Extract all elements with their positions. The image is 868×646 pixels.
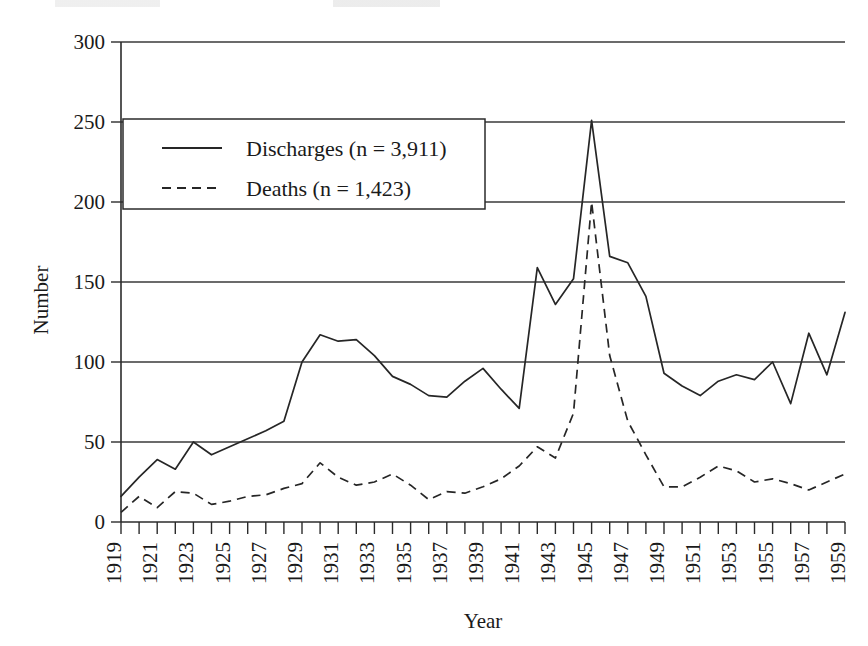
series-line-deaths [121, 202, 845, 512]
y-tick-label-100: 100 [74, 350, 106, 374]
x-axis-ticks [121, 522, 845, 534]
x-axis-title: Year [464, 609, 503, 633]
x-tick-label-1933: 1933 [355, 542, 379, 584]
x-tick-label-1925: 1925 [211, 542, 235, 584]
legend-label-discharges: Discharges (n = 3,911) [246, 136, 447, 161]
x-tick-label-1929: 1929 [283, 542, 307, 584]
x-tick-label-1935: 1935 [392, 542, 416, 584]
x-tick-label-1919: 1919 [102, 542, 126, 584]
x-tick-label-1923: 1923 [174, 542, 198, 584]
legend-label-deaths: Deaths (n = 1,423) [246, 176, 411, 201]
x-tick-label-1941: 1941 [500, 542, 524, 584]
y-tick-label-150: 150 [74, 270, 106, 294]
x-tick-label-1937: 1937 [428, 542, 452, 584]
x-tick-label-1945: 1945 [573, 542, 597, 584]
y-tick-label-0: 0 [95, 510, 106, 534]
x-tick-label-1951: 1951 [681, 542, 705, 584]
x-tick-label-1927: 1927 [247, 542, 271, 584]
x-tick-label-1955: 1955 [754, 542, 778, 584]
y-tick-label-200: 200 [74, 190, 106, 214]
x-tick-label-1943: 1943 [536, 542, 560, 584]
grid-lines [121, 42, 845, 442]
x-axis-tick-labels: 1919192119231925192719291931193319351937… [102, 542, 850, 584]
line-chart: 050100150200250300 191919211923192519271… [0, 0, 868, 646]
x-tick-label-1931: 1931 [319, 542, 343, 584]
x-tick-label-1921: 1921 [138, 542, 162, 584]
x-tick-label-1949: 1949 [645, 542, 669, 584]
y-axis-title: Number [29, 266, 53, 335]
x-tick-label-1947: 1947 [609, 542, 633, 584]
x-tick-label-1959: 1959 [826, 542, 850, 584]
x-tick-label-1939: 1939 [464, 542, 488, 584]
y-axis-tick-labels: 050100150200250300 [74, 30, 106, 534]
y-tick-label-50: 50 [84, 430, 105, 454]
legend: Discharges (n = 3,911) Deaths (n = 1,423… [123, 119, 485, 209]
y-axis-ticks [111, 42, 121, 522]
y-tick-label-250: 250 [74, 110, 106, 134]
y-tick-label-300: 300 [74, 30, 106, 54]
x-tick-label-1953: 1953 [717, 542, 741, 584]
x-tick-label-1957: 1957 [790, 542, 814, 584]
chart-figure: 050100150200250300 191919211923192519271… [0, 0, 868, 646]
